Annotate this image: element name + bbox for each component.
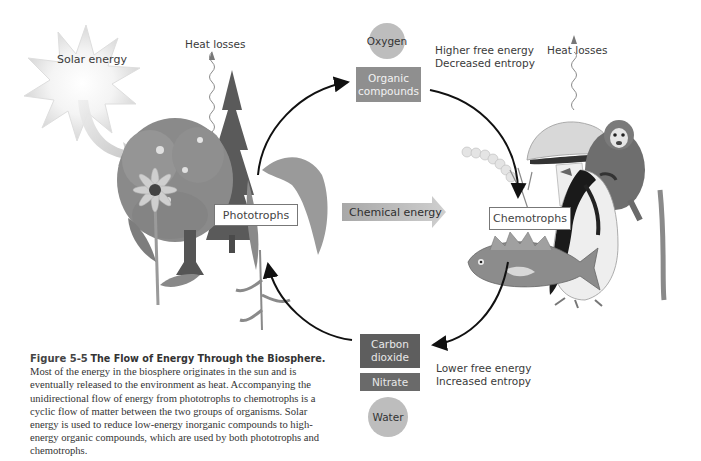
figure-caption: Figure 5-5 The Flow of Energy Through th…: [30, 352, 330, 458]
heat-loss-wave-left: [209, 51, 215, 142]
figure-number: Figure 5-5: [30, 353, 88, 364]
oxygen-circle: Oxygen: [369, 23, 405, 59]
higher-free-energy-line2: Decreased entropy: [435, 57, 535, 70]
bacteria-chain-icon: [462, 147, 516, 182]
chemical-energy-label: Chemical energy: [349, 206, 442, 219]
higher-free-energy-label: Higher free energy Decreased entropy: [435, 44, 535, 70]
lower-free-energy-line2: Increased entropy: [436, 375, 531, 388]
phototrophs-box: Phototrophs: [214, 204, 298, 226]
carbon-dioxide-box: Carbon dioxide: [360, 334, 420, 368]
organic-compounds-line2: compounds: [358, 85, 419, 98]
heat-losses-left-label: Heat losses: [185, 38, 245, 51]
phototroph-plants-illustration: [117, 70, 328, 330]
sun-icon: [24, 25, 140, 141]
organic-compounds-box: Organic compounds: [356, 67, 421, 102]
heat-losses-right-label: Heat losses: [547, 44, 607, 57]
figure-title: The Flow of Energy Through the Biosphere…: [90, 353, 325, 364]
organic-compounds-line1: Organic: [368, 72, 409, 85]
chemotrophs-box: Chemotrophs: [489, 207, 571, 230]
water-label: Water: [372, 411, 403, 423]
oxygen-label: Oxygen: [367, 35, 407, 47]
caption-body: Most of the energy in the biosphere orig…: [30, 366, 319, 456]
water-circle: Water: [368, 397, 408, 437]
lower-free-energy-line1: Lower free energy: [436, 362, 531, 375]
nitrate-box: Nitrate: [360, 373, 420, 391]
arrow-organic-to-chemotrophs: [430, 90, 518, 197]
chemotrophs-label: Chemotrophs: [493, 212, 567, 225]
carbon-dioxide-line2: dioxide: [371, 351, 409, 364]
lower-free-energy-label: Lower free energy Increased entropy: [436, 362, 531, 388]
solar-energy-label: Solar energy: [57, 53, 127, 66]
nitrate-label: Nitrate: [372, 376, 408, 389]
higher-free-energy-line1: Higher free energy: [435, 44, 535, 57]
carbon-dioxide-line1: Carbon: [371, 338, 409, 351]
phototrophs-label: Phototrophs: [223, 209, 289, 222]
